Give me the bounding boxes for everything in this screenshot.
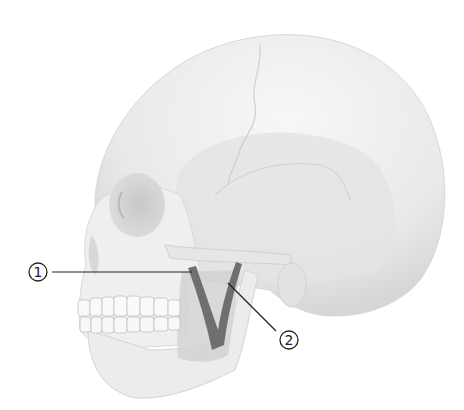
upper-teeth bbox=[78, 296, 180, 316]
skull-diagram: 1 2 bbox=[0, 0, 464, 410]
lower-teeth bbox=[80, 317, 180, 333]
callout-1: 1 bbox=[29, 263, 47, 281]
callout-1-label: 1 bbox=[34, 264, 43, 280]
callout-2-label: 2 bbox=[285, 332, 294, 348]
orbit bbox=[109, 173, 165, 237]
callout-2: 2 bbox=[280, 331, 298, 349]
mastoid-process bbox=[278, 263, 306, 307]
